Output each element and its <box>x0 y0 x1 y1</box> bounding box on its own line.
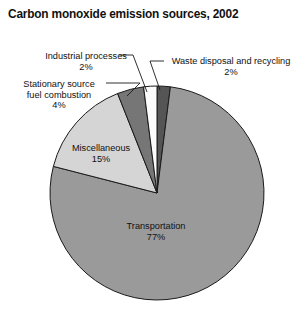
callout-industrial-value: 2% <box>38 62 134 73</box>
callout-stationary-source: Stationary source fuel combustion 4% <box>10 79 108 111</box>
pie-slices <box>50 86 264 300</box>
slice-label-miscellaneous-name: Miscellaneous <box>72 143 130 153</box>
pie-chart-figure: Carbon monoxide emission sources, 2002 I… <box>0 0 296 320</box>
slice-label-transportation-value: 77% <box>108 232 204 243</box>
callout-waste-value: 2% <box>168 67 294 78</box>
callout-waste-disposal: Waste disposal and recycling 2% <box>168 56 294 77</box>
callout-stationary-value: 4% <box>10 100 108 111</box>
callout-waste-label: Waste disposal and recycling <box>172 56 291 66</box>
slice-label-miscellaneous: Miscellaneous 15% <box>58 143 144 164</box>
slice-label-miscellaneous-value: 15% <box>58 154 144 165</box>
callout-stationary-label-line2: fuel combustion <box>10 90 108 101</box>
callout-industrial-processes: Industrial processes 2% <box>38 51 134 72</box>
slice-label-transportation: Transportation 77% <box>108 221 204 242</box>
callout-industrial-label: Industrial processes <box>45 51 127 61</box>
callout-stationary-label-line1: Stationary source <box>23 79 95 89</box>
pie-chart-canvas <box>0 0 296 320</box>
slice-label-transportation-name: Transportation <box>127 221 186 231</box>
